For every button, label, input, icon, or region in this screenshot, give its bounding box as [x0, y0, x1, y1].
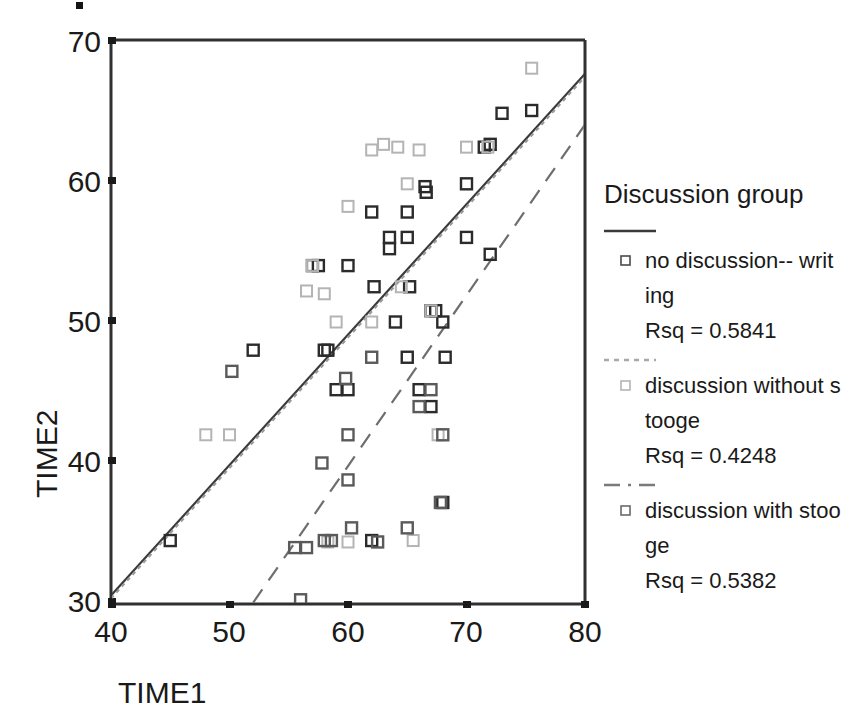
y-tick-label-30: 30	[68, 585, 101, 618]
y-tick-label-60: 60	[68, 165, 101, 198]
legend-rsq-label: Rsq = 0.5841	[645, 318, 776, 343]
legend-rsq-label: Rsq = 0.4248	[645, 443, 776, 468]
legend-label-line1: no discussion-- writ	[645, 248, 833, 273]
x-tick-label-70: 70	[449, 615, 482, 648]
x-tick-label-60: 60	[331, 615, 364, 648]
legend-rsq-label: Rsq = 0.5382	[645, 568, 776, 593]
stray-marker-fragment	[76, 2, 83, 9]
legend-label-line2: tooge	[645, 408, 700, 433]
figure-background	[0, 0, 853, 716]
scatter-plot-figure: 70 60 50 40 30 40 50 60 70 80 TIME2 TIME…	[0, 0, 853, 716]
x-tick-label-80: 80	[568, 615, 601, 648]
legend-label-line2: ing	[645, 283, 674, 308]
y-tick-label-40: 40	[68, 445, 101, 478]
x-tick-label-40: 40	[94, 615, 127, 648]
legend-label-line1: discussion with stoo	[645, 498, 841, 523]
x-axis-title: TIME1	[118, 676, 206, 709]
y-tick-label-70: 70	[68, 25, 101, 58]
legend-title: Discussion group	[604, 179, 803, 209]
y-tick-label-50: 50	[68, 305, 101, 338]
legend-label-line1: discussion without s	[645, 373, 841, 398]
legend-label-line2: ge	[645, 533, 669, 558]
x-tick-label-50: 50	[212, 615, 245, 648]
y-axis-title: TIME2	[30, 410, 63, 498]
